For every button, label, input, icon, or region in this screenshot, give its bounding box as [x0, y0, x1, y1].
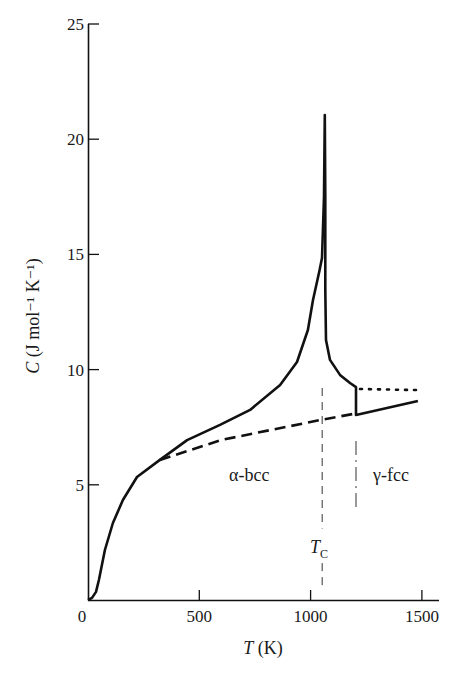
- y-tick-label: 15: [67, 245, 84, 264]
- heat-capacity-chart: 510152025 050010001500 α-bcc γ-fcc TC T …: [0, 0, 471, 675]
- y-axis: 510152025: [67, 15, 99, 601]
- x-tick-label: 500: [187, 607, 213, 626]
- y-tick-label: 10: [67, 361, 84, 380]
- series-layer: [88, 115, 418, 600]
- y-axis-label-unit: (J mol⁻¹ K⁻¹): [23, 258, 44, 361]
- x-tick-label: 0: [78, 607, 87, 626]
- alpha-bcc-label: α-bcc: [229, 465, 269, 485]
- curie-temperature-subscript: C: [320, 547, 328, 561]
- x-axis: 050010001500: [78, 590, 439, 626]
- gamma-fcc-label: γ-fcc: [372, 465, 409, 485]
- series-solid-line: [88, 115, 418, 600]
- y-tick-label: 25: [67, 15, 84, 34]
- y-tick-label: 20: [67, 130, 84, 149]
- y-ticks: 510152025: [67, 15, 99, 495]
- y-tick-label: 5: [76, 476, 85, 495]
- curie-temperature-label: TC: [310, 537, 328, 561]
- x-axis-label-unit: (K): [253, 638, 283, 659]
- x-tick-label: 1000: [294, 607, 328, 626]
- x-ticks: 050010001500: [78, 590, 439, 626]
- y-axis-label: C (J mol⁻¹ K⁻¹): [23, 258, 44, 373]
- x-tick-label: 1500: [405, 607, 439, 626]
- series-dotted-line: [360, 389, 418, 390]
- series-dashed-line: [160, 413, 356, 460]
- x-axis-label: T (K): [243, 638, 283, 659]
